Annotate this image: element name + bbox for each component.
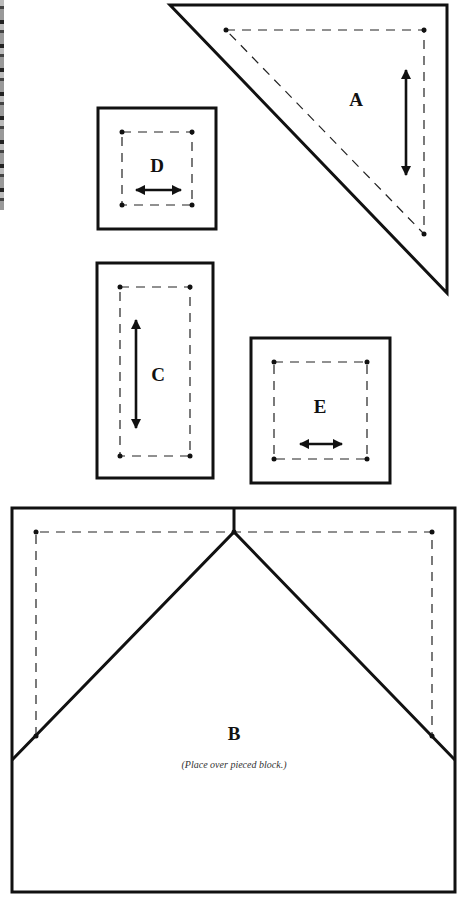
piece-c: C <box>97 263 213 478</box>
piece-e: E <box>251 338 390 483</box>
seam-point <box>118 285 123 290</box>
piece-b-label: B <box>228 723 241 744</box>
seam-point <box>190 130 195 135</box>
piece-e-label: E <box>314 396 327 417</box>
seam-point <box>272 360 277 365</box>
seam-point <box>34 734 39 739</box>
seam-point <box>120 203 125 208</box>
seam-point <box>365 360 370 365</box>
piece-b-note: (Place over pieced block.) <box>182 759 288 771</box>
seam-point <box>430 530 435 535</box>
seam-point <box>188 285 193 290</box>
pattern-sheet: A D C E <box>0 0 464 903</box>
seam-point <box>188 454 193 459</box>
seam-point <box>365 457 370 462</box>
piece-a-seam-line <box>226 30 424 234</box>
piece-a-label: A <box>349 89 363 110</box>
seam-point <box>224 28 229 33</box>
seam-point <box>272 457 277 462</box>
piece-a: A <box>170 5 447 293</box>
seam-point <box>190 203 195 208</box>
seam-point <box>34 530 39 535</box>
piece-d-label: D <box>150 155 164 176</box>
piece-d: D <box>98 108 216 229</box>
seam-point <box>430 734 435 739</box>
piece-b-seam-line <box>36 532 432 736</box>
seam-point <box>422 28 427 33</box>
piece-b: B (Place over pieced block.) <box>12 508 455 892</box>
seam-point <box>118 454 123 459</box>
piece-c-label: C <box>151 364 165 385</box>
seam-point <box>422 232 427 237</box>
seam-point <box>120 130 125 135</box>
piece-b-cut-line <box>12 508 455 892</box>
seam-point <box>232 530 237 535</box>
